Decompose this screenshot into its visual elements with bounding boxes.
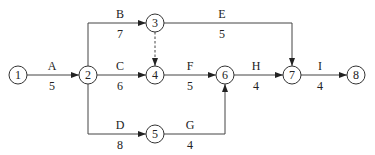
node-1: 1 — [9, 66, 27, 84]
activity-label-G: G — [186, 118, 195, 132]
node-label-6: 6 — [222, 68, 228, 82]
node-5: 5 — [146, 125, 164, 143]
node-4: 4 — [146, 66, 164, 84]
edge-D: D 8 — [88, 84, 146, 152]
node-2: 2 — [79, 66, 97, 84]
activity-duration-F: 5 — [187, 79, 193, 93]
node-label-5: 5 — [152, 127, 158, 141]
activity-label-E: E — [218, 7, 225, 21]
activity-duration-C: 6 — [117, 79, 123, 93]
activity-label-I: I — [318, 59, 322, 73]
activity-duration-I: 4 — [317, 79, 323, 93]
edge-I: I 4 — [301, 59, 347, 93]
activity-duration-A: 5 — [49, 79, 55, 93]
activity-duration-B: 7 — [117, 27, 123, 41]
node-label-3: 3 — [152, 16, 158, 30]
node-label-7: 7 — [289, 68, 295, 82]
activity-duration-H: 4 — [253, 79, 259, 93]
activity-duration-G: 4 — [187, 138, 193, 152]
activity-label-A: A — [48, 59, 57, 73]
activity-duration-D: 8 — [117, 138, 123, 152]
activity-duration-E: 5 — [219, 27, 225, 41]
node-8: 8 — [347, 66, 365, 84]
edge-C: C 6 — [97, 59, 146, 93]
activity-label-F: F — [187, 59, 194, 73]
node-7: 7 — [283, 66, 301, 84]
edge-B: B 7 — [88, 7, 146, 66]
activity-label-H: H — [252, 59, 261, 73]
node-label-2: 2 — [85, 68, 91, 82]
activity-label-D: D — [116, 118, 125, 132]
node-6: 6 — [216, 66, 234, 84]
activity-label-C: C — [116, 59, 124, 73]
network-diagram: A 5 B 7 C 6 D 8 E 5 F 5 G 4 H 4 I 4 — [0, 0, 375, 155]
edge-H: H 4 — [234, 59, 283, 93]
edge-A: A 5 — [27, 59, 79, 93]
node-label-1: 1 — [15, 68, 21, 82]
edge-F: F 5 — [164, 59, 216, 93]
activity-label-B: B — [116, 7, 124, 21]
node-label-4: 4 — [152, 68, 158, 82]
edge-E: E 5 — [164, 7, 292, 66]
node-3: 3 — [146, 14, 164, 32]
node-label-8: 8 — [353, 68, 359, 82]
edge-G: G 4 — [164, 84, 225, 152]
